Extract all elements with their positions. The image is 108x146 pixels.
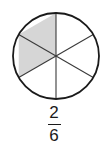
fraction-bar	[48, 124, 61, 125]
fraction-stack: 2 6	[48, 104, 61, 145]
fraction-label: 2 6	[0, 104, 108, 145]
fraction-denominator: 6	[48, 126, 61, 145]
fraction-circle-figure: 2 6	[0, 0, 108, 146]
fraction-numerator: 2	[48, 104, 61, 123]
